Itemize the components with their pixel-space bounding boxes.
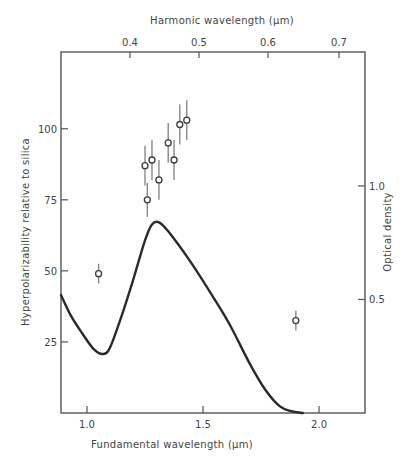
y-tick-label: 100 [38, 124, 57, 135]
optical-density-line [61, 222, 303, 413]
data-point [293, 311, 299, 331]
right-tick-label: 1.0 [369, 181, 385, 192]
open-circle-marker [149, 157, 155, 163]
top-tick-label: 0.4 [122, 37, 138, 48]
y-tick-label: 75 [44, 195, 57, 206]
data-point [149, 140, 155, 180]
open-circle-marker [177, 121, 183, 127]
x-axis-label: Fundamental wavelength (μm) [91, 439, 253, 450]
top-axis-label: Harmonic wavelength (μm) [150, 15, 294, 26]
open-circle-marker [171, 157, 177, 163]
open-circle-marker [293, 318, 299, 324]
y-tick-label: 50 [44, 266, 57, 277]
open-circle-marker [142, 163, 148, 169]
top-tick-label: 0.6 [260, 37, 276, 48]
right-tick-label: 0.5 [369, 294, 385, 305]
open-circle-marker [184, 117, 190, 123]
data-point [184, 100, 190, 140]
data-point [171, 140, 177, 180]
data-point [156, 160, 162, 200]
x-tick-label: 2.0 [311, 419, 327, 430]
plot-frame [61, 52, 365, 413]
data-point [177, 105, 183, 145]
x-tick-label: 1.0 [79, 419, 95, 430]
axis-ticks: 1.01.52.00.40.50.60.72550751000.51.0 [38, 37, 385, 430]
data-point [96, 264, 102, 284]
open-circle-marker [165, 140, 171, 146]
optical-density-curve [61, 222, 303, 413]
y-tick-label: 25 [44, 337, 57, 348]
open-circle-marker [144, 197, 150, 203]
data-point [165, 123, 171, 163]
open-circle-marker [156, 177, 162, 183]
data-point [144, 183, 150, 217]
top-tick-label: 0.5 [191, 37, 207, 48]
top-tick-label: 0.7 [331, 37, 347, 48]
hyperpolarizability-points [96, 100, 299, 330]
x-tick-label: 1.5 [195, 419, 211, 430]
right-axis-label: Optical density [382, 192, 393, 272]
data-point [142, 146, 148, 186]
plot-border [61, 52, 365, 413]
y-axis-label: Hyperpolarizability relative to silica [20, 138, 31, 326]
chart-canvas: 1.01.52.00.40.50.60.72550751000.51.0 Fun… [0, 0, 419, 468]
open-circle-marker [96, 271, 102, 277]
